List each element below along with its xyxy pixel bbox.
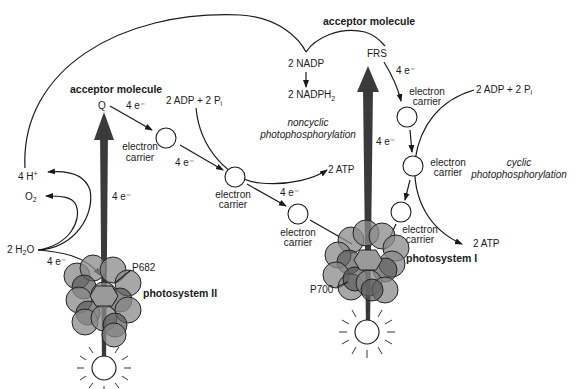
atp-right-label: 2 ATP [473, 238, 500, 249]
electron-carrier-3 [288, 204, 308, 224]
oxygen-label: O2 [25, 191, 37, 203]
carrier1-label-line2: carrier [126, 152, 155, 163]
cyclic-label-line2: photophosphorylation [470, 169, 567, 180]
electron-carrier-1 [156, 128, 176, 148]
acceptor-molecule-left-label: acceptor molecule [70, 83, 162, 95]
frs-label: FRS [367, 48, 387, 59]
sunlight-icon [339, 306, 395, 358]
carrier4-label-line2: carrier [413, 96, 442, 107]
carrier3-label-line2: carrier [284, 237, 313, 248]
electrons-q-label: 4 e⁻ [126, 100, 145, 111]
p682-label: P682 [132, 262, 156, 273]
electrons-frs-label: 4 e⁻ [396, 65, 415, 76]
carrier1-label-line1: electron [122, 141, 158, 152]
adp-pi-left-label: 2 ADP + 2 Pi [166, 95, 223, 107]
adp-pi-right-label: 2 ADP + 2 Pi [476, 84, 533, 96]
noncyclic-label-line2: photophosphorylation [259, 129, 356, 140]
water-label: 2 H2O [7, 244, 34, 256]
electrons-water-label: 4 e⁻ [47, 256, 66, 267]
noncyclic-label-line1: noncyclic [287, 117, 328, 128]
photosystem-i-label: photosystem I [406, 252, 477, 264]
electrons-ps2-label: 4 e⁻ [112, 191, 131, 202]
electron-carrier-5 [403, 156, 423, 176]
carrier5-label-line2: carrier [434, 167, 463, 178]
electrons-c1-label: 4 e⁻ [175, 157, 194, 168]
electron-carrier-4 [397, 107, 417, 127]
q-label: Q [98, 100, 106, 111]
electron-carrier-2 [225, 167, 245, 187]
carrier4-to-carrier5-arrow [410, 130, 412, 152]
nadph-label: 2 NADPH2 [288, 89, 335, 102]
cyclic-label-line1: cyclic [507, 157, 531, 168]
acceptor-molecule-right-label: acceptor molecule [323, 15, 415, 27]
protons-label: 4 H+ [18, 170, 38, 182]
photosynthesis-diagram: acceptor molecule acceptor molecule Q FR… [0, 0, 587, 389]
electron-carrier-6 [391, 202, 411, 222]
water-to-oxygen-arrow [38, 196, 77, 250]
carrier6-label-line2: carrier [406, 234, 435, 245]
electrons-c2-label: 4 e⁻ [280, 187, 299, 198]
atp-left-label: 2 ATP [328, 164, 355, 175]
photosystem-ii-label: photosystem II [143, 287, 217, 299]
carrier5-to-carrier6-arrow [405, 180, 410, 200]
nadp-label: 2 NADP [288, 58, 324, 69]
electrons-ps1-label: 4 e⁻ [376, 136, 395, 147]
carrier2-label-line2: carrier [219, 199, 248, 210]
photosystem-i-pigment-cluster [323, 220, 409, 303]
p700-label: P700 [310, 284, 334, 295]
photosystem-ii-pigment-cluster [64, 255, 141, 347]
